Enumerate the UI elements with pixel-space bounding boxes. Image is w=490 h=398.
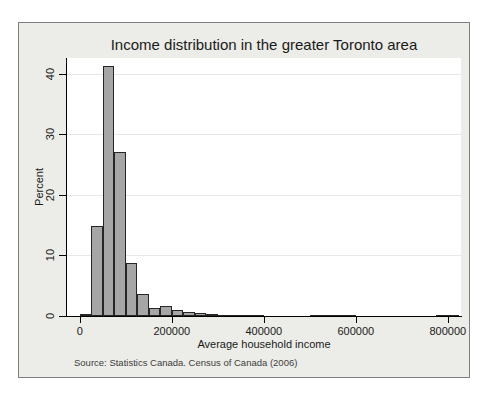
y-tick-label: 20: [44, 189, 56, 201]
chart-canvas: Income distribution in the greater Toron…: [0, 0, 490, 398]
histogram-bar: [103, 66, 114, 316]
x-axis-title: Average household income: [67, 338, 461, 350]
histogram-bar: [149, 308, 160, 316]
histogram-bar: [114, 152, 125, 316]
chart-frame: Income distribution in the greater Toron…: [18, 22, 470, 378]
gridline: [67, 255, 461, 256]
y-tick-label: 30: [44, 128, 56, 140]
x-tick-label: 800000: [418, 325, 478, 337]
histogram-bar: [91, 226, 102, 316]
gridline: [67, 195, 461, 196]
histogram-bar: [160, 306, 171, 316]
histogram-bar: [126, 263, 137, 316]
y-axis-tick: [59, 255, 66, 256]
x-tick-label: 200000: [142, 325, 202, 337]
x-axis-tick: [356, 316, 357, 323]
y-tick-label: 0: [44, 313, 56, 319]
gridline: [67, 74, 461, 75]
x-axis-tick: [448, 316, 449, 323]
chart-title: Income distribution in the greater Toron…: [67, 36, 461, 53]
x-tick-label: 0: [50, 325, 110, 337]
y-axis-tick: [59, 74, 66, 75]
x-axis-tick: [264, 316, 265, 323]
histogram-bar: [137, 294, 148, 316]
source-note: Source: Statistics Canada. Census of Can…: [74, 357, 297, 368]
y-axis-tick: [59, 316, 66, 317]
y-axis-line: [66, 58, 67, 317]
gridline: [67, 134, 461, 135]
plot-area: [67, 58, 461, 316]
x-tick-label: 600000: [326, 325, 386, 337]
x-tick-label: 400000: [234, 325, 294, 337]
y-axis-tick: [59, 134, 66, 135]
y-tick-label: 40: [44, 68, 56, 80]
x-axis-tick: [172, 316, 173, 323]
y-axis-tick: [59, 195, 66, 196]
x-axis-tick: [80, 316, 81, 323]
y-tick-label: 10: [44, 249, 56, 261]
